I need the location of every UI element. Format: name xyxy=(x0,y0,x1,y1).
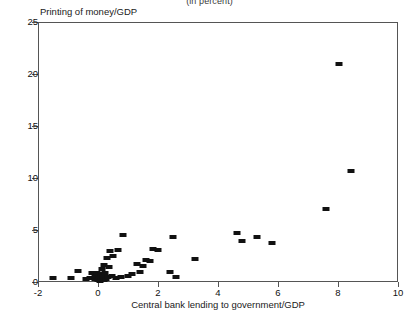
data-point xyxy=(139,264,146,268)
y-tick-label: 25 xyxy=(12,16,38,27)
data-point xyxy=(120,233,127,237)
y-tick-label: 10 xyxy=(12,172,38,183)
data-point xyxy=(322,207,329,211)
data-point xyxy=(169,235,176,239)
data-point xyxy=(136,270,143,274)
data-point xyxy=(154,248,161,252)
y-tick-label: 5 xyxy=(12,224,38,235)
data-point xyxy=(129,272,136,276)
data-point xyxy=(253,235,260,239)
x-tick-label: 10 xyxy=(383,287,413,298)
data-point xyxy=(238,239,245,243)
data-point xyxy=(75,269,82,273)
x-tick-label: 0 xyxy=(83,287,113,298)
plot-area xyxy=(38,22,398,282)
data-point xyxy=(348,169,355,173)
x-tick-label: 2 xyxy=(143,287,173,298)
x-tick-label: 8 xyxy=(323,287,353,298)
y-axis-label: Printing of money/GDP xyxy=(40,6,137,17)
data-point xyxy=(336,62,343,66)
data-point xyxy=(49,276,56,280)
data-point xyxy=(147,259,154,263)
data-point xyxy=(192,257,199,261)
y-tick-label: 15 xyxy=(12,120,38,131)
x-tick-label: 6 xyxy=(263,287,293,298)
data-point xyxy=(268,241,275,245)
data-point xyxy=(107,249,114,253)
data-point xyxy=(110,254,117,258)
y-tick-label: 20 xyxy=(12,68,38,79)
scatter-chart-figure: (in percent) Printing of money/GDP 05101… xyxy=(0,0,419,313)
data-point xyxy=(166,270,173,274)
x-tick-label: 4 xyxy=(203,287,233,298)
data-point xyxy=(67,276,74,280)
data-point xyxy=(105,265,112,269)
x-tick-label: -2 xyxy=(23,287,53,298)
y-tick-label: 0 xyxy=(12,276,38,287)
data-points-layer xyxy=(39,23,397,281)
data-point xyxy=(172,275,179,279)
data-point xyxy=(114,248,121,252)
x-axis-label: Central bank lending to government/GDP xyxy=(38,299,398,310)
data-point xyxy=(234,231,241,235)
